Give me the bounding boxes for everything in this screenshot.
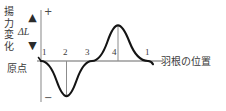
x-axis-caption: 羽根の位置 [161, 53, 211, 68]
tick-label-1: 2 [63, 48, 68, 57]
minus-sign-label: − [44, 92, 52, 103]
y-axis-caption: 揚 力 変 化 [2, 6, 15, 52]
tick-label-4: 1 [145, 48, 150, 57]
arrow-up-icon: ▲ [27, 12, 38, 23]
origin-label: 原点 [7, 60, 27, 75]
plus-sign-label: + [44, 6, 52, 17]
tick-label-2: 3 [85, 48, 90, 57]
arrow-down-icon: ▼ [27, 40, 38, 51]
delta-l-label: ΔL [18, 26, 29, 37]
tick-label-0: 1 [42, 48, 47, 57]
lift-variation-figure: 揚 力 変 化 ▲ ΔL ▼ 原点 + − 羽根の位置 12341 [0, 0, 226, 111]
tick-label-3: 4 [112, 48, 117, 57]
